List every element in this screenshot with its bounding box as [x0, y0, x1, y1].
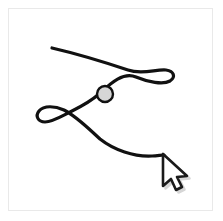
app-root: Freeform Drawing Canvas — [0, 0, 223, 221]
drawing-canvas[interactable] — [0, 0, 223, 221]
control-point-handle[interactable] — [97, 86, 113, 102]
